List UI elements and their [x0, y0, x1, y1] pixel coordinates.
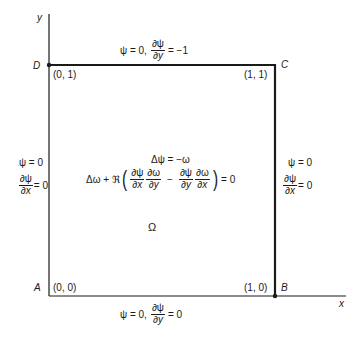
- fraction-denominator: ∂y: [152, 315, 164, 326]
- fraction-denominator: ∂x: [20, 186, 32, 197]
- bc-left-psi: ψ = 0: [8, 158, 48, 168]
- fraction-numerator: ∂ψ: [19, 174, 33, 186]
- right-boundary-condition: ψ = 0 ∂ψ ∂x = 0: [282, 158, 312, 196]
- fraction-numerator: ∂ψ: [283, 174, 297, 186]
- corner-label-a: A: [34, 283, 41, 293]
- bc-bottom-derivative: ∂ψ ∂y: [151, 303, 165, 325]
- equation-poisson: Δψ = −ω: [151, 155, 190, 165]
- eq-term4: ∂ω ∂x: [195, 168, 210, 190]
- fraction-numerator: ∂ψ: [151, 303, 165, 315]
- corner-label-b: B: [281, 283, 288, 293]
- equation-vorticity: Δω + ℜ ( ∂ψ ∂x ∂ω ∂y − ∂ψ ∂y ∂ω ∂x ) = 0: [86, 168, 235, 190]
- corner-dot-b: [273, 294, 277, 298]
- corner-coord-c: (1, 1): [244, 70, 267, 80]
- corner-coord-b: (1, 0): [244, 283, 267, 293]
- corner-label-d: D: [33, 61, 40, 71]
- left-boundary-condition: ψ = 0 ∂ψ ∂x = 0: [8, 158, 48, 196]
- bc-bottom-rhs: = 0: [168, 309, 182, 320]
- eq-term2: ∂ω ∂y: [146, 168, 161, 190]
- eq-term3: ∂ψ ∂y: [179, 168, 193, 190]
- fraction-denominator: ∂y: [180, 180, 192, 191]
- fraction-numerator: ∂ω: [146, 168, 161, 180]
- x-axis-label: x: [339, 299, 344, 309]
- corner-label-c: C: [281, 60, 288, 70]
- bc-bottom-psi: ψ = 0,: [120, 309, 147, 320]
- y-axis-label: y: [37, 13, 42, 23]
- left-paren: (: [122, 168, 127, 190]
- bc-left-derivative: ∂ψ ∂x: [19, 174, 33, 196]
- fraction-numerator: ∂ω: [195, 168, 210, 180]
- right-paren: ): [213, 168, 218, 190]
- top-boundary-condition: ψ = 0, ∂ψ ∂y = −1: [120, 39, 188, 61]
- eq-term1: ∂ψ ∂x: [130, 168, 144, 190]
- bc-right-psi: ψ = 0: [282, 158, 312, 168]
- fraction-denominator: ∂y: [148, 180, 160, 191]
- fraction-denominator: ∂x: [196, 180, 208, 191]
- bc-top-psi: ψ = 0,: [120, 45, 147, 56]
- fraction-numerator: ∂ψ: [179, 168, 193, 180]
- bottom-boundary-condition: ψ = 0, ∂ψ ∂y = 0: [120, 303, 182, 325]
- fraction-denominator: ∂y: [152, 51, 164, 62]
- fraction-numerator: ∂ψ: [151, 39, 165, 51]
- eq-lead: Δω + ℜ: [86, 174, 120, 185]
- bc-right-rhs: = 0: [298, 180, 312, 191]
- corner-coord-a: (0, 0): [53, 283, 76, 293]
- fraction-numerator: ∂ψ: [130, 168, 144, 180]
- corner-dot-d: [47, 63, 51, 67]
- bc-right-derivative: ∂ψ ∂x: [283, 174, 297, 196]
- fraction-denominator: ∂x: [284, 186, 296, 197]
- domain-omega-label: Ω: [148, 222, 156, 233]
- corner-coord-d: (0, 1): [53, 70, 76, 80]
- eq-rhs: = 0: [221, 174, 235, 185]
- bc-top-rhs: = −1: [168, 45, 188, 56]
- fraction-denominator: ∂x: [131, 180, 143, 191]
- eq-minus: −: [167, 174, 173, 185]
- bc-top-derivative: ∂ψ ∂y: [151, 39, 165, 61]
- bc-left-rhs: = 0: [34, 180, 48, 191]
